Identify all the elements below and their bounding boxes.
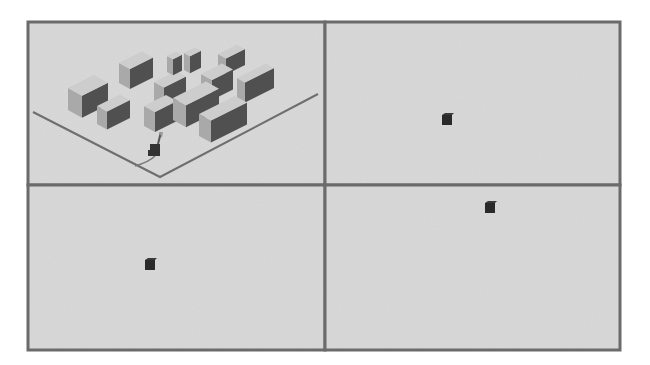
panel-bottom-right (323, 185, 620, 350)
panel-grain (28, 185, 325, 350)
panel-top-left (28, 22, 325, 185)
panel-grain (325, 185, 620, 350)
simulation-frames-figure (0, 0, 650, 365)
panel-top-right (325, 22, 620, 185)
building (167, 52, 182, 76)
panel-bottom-left (28, 185, 325, 350)
panel-grain (325, 22, 620, 185)
panels-layer (28, 22, 620, 350)
